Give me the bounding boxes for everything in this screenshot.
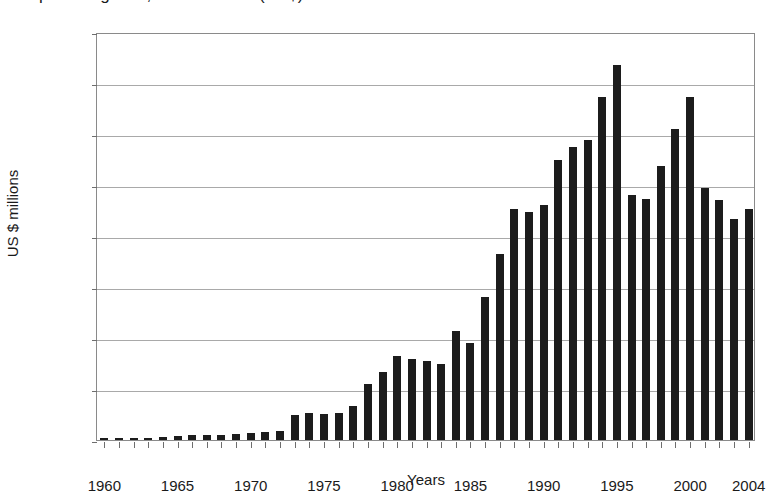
- bar: [584, 140, 592, 440]
- bar: [481, 297, 489, 440]
- bar: [686, 97, 694, 440]
- bar: [203, 435, 211, 440]
- bar-series: [97, 34, 754, 440]
- bar: [657, 166, 665, 440]
- bar: [408, 359, 416, 440]
- bar: [642, 199, 650, 440]
- x-tick-mark: [280, 442, 281, 448]
- x-tick-mark: [134, 442, 135, 448]
- x-tick-mark: [617, 442, 618, 448]
- x-tick-mark: [661, 442, 662, 448]
- bar: [569, 147, 577, 440]
- y-axis-title: US $ millions: [4, 114, 21, 314]
- bar: [701, 188, 709, 440]
- bar: [349, 406, 357, 440]
- bar: [115, 438, 123, 440]
- x-tick-mark: [368, 442, 369, 448]
- x-tick-mark: [500, 442, 501, 448]
- bar: [364, 384, 372, 440]
- x-tick-mark: [236, 442, 237, 448]
- x-tick-mark: [514, 442, 515, 448]
- bar: [452, 331, 460, 440]
- bar: [745, 209, 753, 440]
- x-tick-mark: [104, 442, 105, 448]
- x-tick-mark: [178, 442, 179, 448]
- bar: [730, 219, 738, 440]
- x-tick-mark: [353, 442, 354, 448]
- x-tick-mark: [383, 442, 384, 448]
- x-tick-mark: [397, 442, 398, 448]
- bar: [715, 200, 723, 440]
- x-tick-mark: [632, 442, 633, 448]
- x-tick-mark: [558, 442, 559, 448]
- x-tick-mark: [602, 442, 603, 448]
- bar: [628, 195, 636, 440]
- bar: [671, 129, 679, 440]
- x-tick-mark: [646, 442, 647, 448]
- x-tick-mark: [588, 442, 589, 448]
- bar: [540, 205, 548, 440]
- bar: [144, 438, 152, 440]
- bar: [276, 431, 284, 440]
- x-tick-mark: [192, 442, 193, 448]
- x-tick-mark: [470, 442, 471, 448]
- bar: [130, 438, 138, 440]
- x-tick-mark: [705, 442, 706, 448]
- chart-title: Imports of goods, current value (US$): [20, 0, 660, 5]
- bar: [466, 343, 474, 440]
- x-tick-mark: [441, 442, 442, 448]
- bar: [305, 413, 313, 440]
- bar: [393, 356, 401, 440]
- x-tick-mark: [719, 442, 720, 448]
- bar: [217, 435, 225, 440]
- bar: [437, 364, 445, 441]
- plot-area: 0200040006000800010000120001400016000 19…: [96, 33, 755, 441]
- bar: [379, 372, 387, 440]
- bar: [554, 160, 562, 441]
- x-tick-mark: [412, 442, 413, 448]
- x-tick-mark: [265, 442, 266, 448]
- x-tick-mark: [427, 442, 428, 448]
- x-tick-mark: [529, 442, 530, 448]
- bar: [525, 212, 533, 440]
- x-tick-mark: [749, 442, 750, 448]
- x-tick-mark: [690, 442, 691, 448]
- bar: [335, 413, 343, 440]
- bar: [188, 435, 196, 440]
- x-tick-mark: [119, 442, 120, 448]
- x-tick-mark: [295, 442, 296, 448]
- x-tick-mark: [456, 442, 457, 448]
- x-tick-mark: [573, 442, 574, 448]
- x-tick-mark: [485, 442, 486, 448]
- x-tick-mark: [163, 442, 164, 448]
- x-tick-mark: [251, 442, 252, 448]
- x-tick-mark: [309, 442, 310, 448]
- bar: [510, 209, 518, 440]
- bar: [100, 438, 108, 440]
- x-tick-mark: [324, 442, 325, 448]
- x-tick-mark: [675, 442, 676, 448]
- bar: [291, 415, 299, 440]
- x-tick-mark: [148, 442, 149, 448]
- bar: [423, 361, 431, 440]
- x-tick-mark: [221, 442, 222, 448]
- bar: [496, 254, 504, 440]
- x-tick-mark: [734, 442, 735, 448]
- bar-chart-figure: Imports of goods, current value (US$) US…: [0, 0, 768, 495]
- bar: [261, 432, 269, 440]
- x-tick-mark: [544, 442, 545, 448]
- bar: [613, 65, 621, 440]
- bar: [320, 414, 328, 440]
- x-tick-mark: [339, 442, 340, 448]
- bar: [232, 434, 240, 440]
- bar: [247, 433, 255, 440]
- y-tick-mark: [92, 442, 97, 443]
- bar: [174, 436, 182, 440]
- x-tick-mark: [207, 442, 208, 448]
- bar: [159, 437, 167, 440]
- bar: [598, 97, 606, 440]
- x-axis-title: Years: [96, 471, 756, 488]
